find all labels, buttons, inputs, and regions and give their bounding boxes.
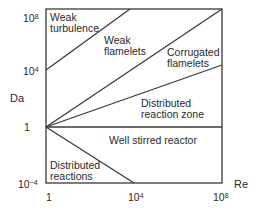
region-distributed-reactions: Distributed reactions [50,160,100,182]
x-tick-1e4: 104 [128,192,144,203]
regime-diagram-plot [0,0,257,208]
y-tick-1: 1 [24,122,30,133]
x-axis-label: Re [234,179,248,190]
y-tick-1e4: 104 [23,66,39,77]
y-axis-label: Da [10,93,24,104]
x-tick-1e8: 108 [213,192,229,203]
region-weak-turbulence: Weak turbulence [50,12,99,34]
y-tick-1e8: 108 [23,13,39,24]
x-tick-1: 1 [46,192,52,203]
region-corrugated-flamelets: Corrugated flamelets [167,47,220,69]
region-weak-flamelets: Weak flamelets [104,35,146,57]
region-well-stirred-reactor: Well stirred reactor [109,135,197,146]
region-distributed-reaction-zone: Distributed reaction zone [141,98,204,120]
y-tick-1e-4: 10−4 [18,179,38,190]
